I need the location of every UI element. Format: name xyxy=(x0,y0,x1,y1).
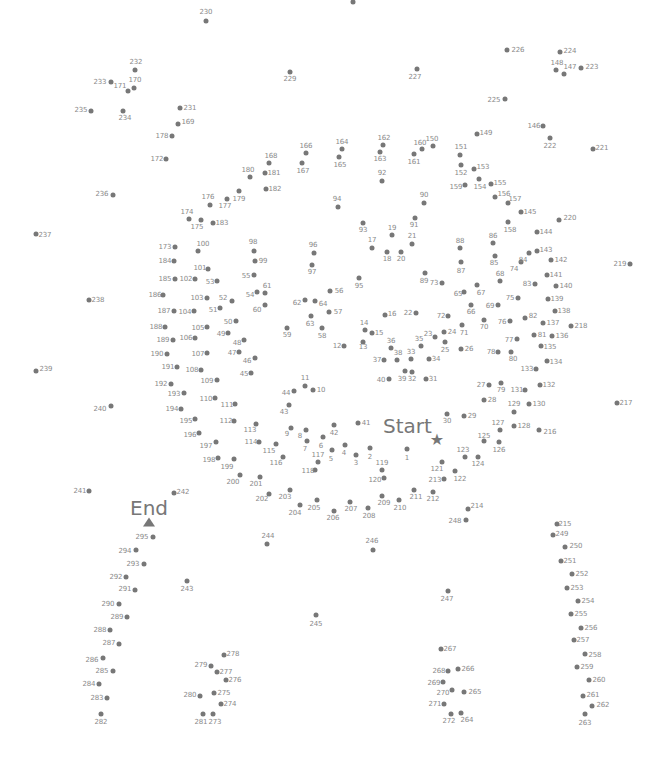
dot-196[interactable] xyxy=(197,431,202,436)
dot-90[interactable] xyxy=(422,201,427,206)
dot-168[interactable] xyxy=(267,161,272,166)
dot-160[interactable] xyxy=(420,147,425,152)
dot-77[interactable] xyxy=(515,337,520,342)
dot-162[interactable] xyxy=(381,143,386,148)
dot-128[interactable] xyxy=(512,424,517,429)
dot-49[interactable] xyxy=(226,331,231,336)
dot-216[interactable] xyxy=(537,428,542,433)
dot-275[interactable] xyxy=(212,691,217,696)
dot-54[interactable] xyxy=(255,290,260,295)
dot-283[interactable] xyxy=(105,696,110,701)
dot-95[interactable] xyxy=(357,276,362,281)
dot-231[interactable] xyxy=(178,106,183,111)
dot-40[interactable] xyxy=(387,377,392,382)
dot-247[interactable] xyxy=(446,589,451,594)
dot-120[interactable] xyxy=(382,476,387,481)
dot-220[interactable] xyxy=(557,218,562,223)
dot-11[interactable] xyxy=(303,384,308,389)
dot-109[interactable] xyxy=(215,378,220,383)
dot-282[interactable] xyxy=(99,712,104,717)
dot-265[interactable] xyxy=(462,690,467,695)
dot-199[interactable] xyxy=(232,457,237,462)
dot-88[interactable] xyxy=(458,246,463,251)
dot-240[interactable] xyxy=(109,404,114,409)
dot-107[interactable] xyxy=(205,351,210,356)
dot-285[interactable] xyxy=(111,669,116,674)
dot-164[interactable] xyxy=(340,147,345,152)
dot-123[interactable] xyxy=(463,455,468,460)
dot-281[interactable] xyxy=(201,712,206,717)
dot-191[interactable] xyxy=(175,365,180,370)
dot-94[interactable] xyxy=(336,205,341,210)
dot-42[interactable] xyxy=(332,423,337,428)
dot-60[interactable] xyxy=(263,303,268,308)
dot-140[interactable] xyxy=(554,284,559,289)
dot-152[interactable] xyxy=(459,163,464,168)
dot-204[interactable] xyxy=(298,503,303,508)
dot-29[interactable] xyxy=(462,414,467,419)
dot-102[interactable] xyxy=(193,277,198,282)
dot-2[interactable] xyxy=(368,446,373,451)
dot-99[interactable] xyxy=(253,259,258,264)
dot-292[interactable] xyxy=(124,575,129,580)
dot-224[interactable] xyxy=(558,50,563,55)
dot-96[interactable] xyxy=(312,251,317,256)
dot-246[interactable] xyxy=(371,548,376,553)
dot-269[interactable] xyxy=(441,680,446,685)
dot-130[interactable] xyxy=(527,402,532,407)
dot-198[interactable] xyxy=(216,456,221,461)
dot-222[interactable] xyxy=(548,136,553,141)
dot-62[interactable] xyxy=(303,298,308,303)
dot-117[interactable] xyxy=(316,460,321,465)
dot-133[interactable] xyxy=(534,367,539,372)
dot-4[interactable] xyxy=(343,443,348,448)
dot-178[interactable] xyxy=(170,134,175,139)
dot-61[interactable] xyxy=(263,291,268,296)
dot-210[interactable] xyxy=(397,498,402,503)
dot-129[interactable] xyxy=(512,410,517,415)
dot-174[interactable] xyxy=(187,217,192,222)
dot-27[interactable] xyxy=(487,383,492,388)
dot-67[interactable] xyxy=(475,283,480,288)
dot-86[interactable] xyxy=(491,241,496,246)
dot-236[interactable] xyxy=(111,193,116,198)
dot-259[interactable] xyxy=(575,665,580,670)
dot-103[interactable] xyxy=(205,296,210,301)
dot-122[interactable] xyxy=(453,469,458,474)
dot-219[interactable] xyxy=(628,262,633,267)
dot-284[interactable] xyxy=(97,682,102,687)
dot-243[interactable] xyxy=(185,579,190,584)
dot-159[interactable] xyxy=(463,183,468,188)
dot-9[interactable] xyxy=(289,426,294,431)
dot-57[interactable] xyxy=(327,310,332,315)
dot-119[interactable] xyxy=(380,468,385,473)
dot-24[interactable] xyxy=(442,330,447,335)
dot-58[interactable] xyxy=(320,326,325,331)
dot-106[interactable] xyxy=(193,336,198,341)
dot-170[interactable] xyxy=(132,86,137,91)
dot-289[interactable] xyxy=(125,615,130,620)
dot-22[interactable] xyxy=(414,311,419,316)
dot-92[interactable] xyxy=(380,179,385,184)
dot-64[interactable] xyxy=(313,299,318,304)
dot-185[interactable] xyxy=(173,277,178,282)
dot-250[interactable] xyxy=(563,545,568,550)
dot-35[interactable] xyxy=(419,344,424,349)
dot-166[interactable] xyxy=(304,151,309,156)
dot-213[interactable] xyxy=(442,477,447,482)
dot-205[interactable] xyxy=(315,498,320,503)
dot-248[interactable] xyxy=(464,518,469,523)
dot-82[interactable] xyxy=(523,316,528,321)
dot-150[interactable] xyxy=(431,144,436,149)
dot-127[interactable] xyxy=(498,428,503,433)
dot-21[interactable] xyxy=(410,242,415,247)
dot-268[interactable] xyxy=(446,669,451,674)
dot-47[interactable] xyxy=(237,350,242,355)
dot-233[interactable] xyxy=(109,80,114,85)
dot-7[interactable] xyxy=(305,439,310,444)
dot-179[interactable] xyxy=(237,189,242,194)
dot-263[interactable] xyxy=(583,712,588,717)
dot-290[interactable] xyxy=(117,602,122,607)
dot-52[interactable] xyxy=(230,299,235,304)
dot-147[interactable] xyxy=(562,72,567,77)
